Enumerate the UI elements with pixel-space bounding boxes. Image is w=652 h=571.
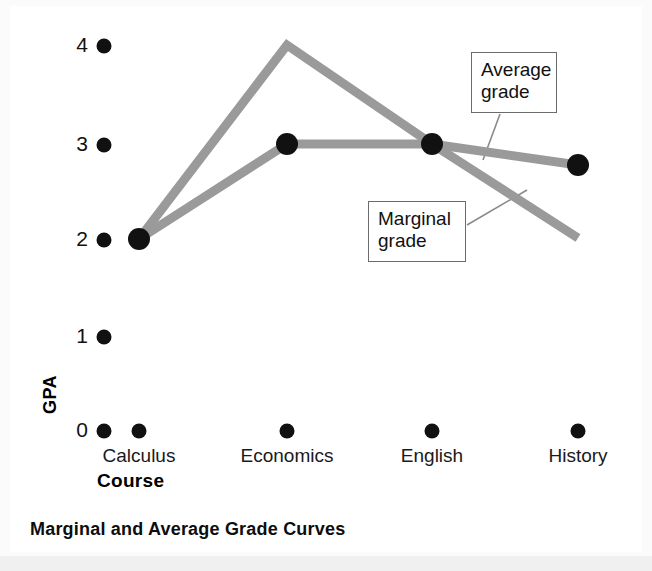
data-point-calculus	[128, 228, 150, 250]
y-tick-dot-4	[97, 39, 112, 54]
y-tick-label-0: 0	[58, 419, 88, 440]
y-axis-title: GPA	[40, 371, 61, 419]
y-tick-dot-1	[97, 330, 112, 345]
x-tick-label-english: English	[362, 446, 502, 465]
figure-caption: Marginal and Average Grade Curves	[30, 519, 345, 540]
data-point-economics-average	[276, 133, 298, 155]
y-tick-label-3: 3	[58, 133, 88, 154]
x-tick-dot-english	[425, 424, 440, 439]
x-tick-dot-calculus	[132, 424, 147, 439]
x-axis-title: Course	[97, 470, 164, 492]
data-point-english-crossing	[421, 133, 443, 155]
annotation-average-grade: Average grade	[471, 52, 557, 113]
x-tick-label-economics: Economics	[217, 446, 357, 465]
x-tick-dot-history	[571, 424, 586, 439]
annotation-marginal-grade: Marginal grade	[368, 201, 466, 262]
x-tick-label-calculus: Calculus	[69, 446, 209, 465]
x-tick-dot-economics	[280, 424, 295, 439]
y-tick-dot-2	[97, 233, 112, 248]
chart-figure: 4 3 2 1 0 Calculus Economics English His…	[0, 0, 652, 571]
y-tick-label-4: 4	[58, 34, 88, 55]
y-tick-label-2: 2	[58, 228, 88, 249]
x-tick-label-history: History	[508, 446, 648, 465]
y-tick-label-1: 1	[58, 325, 88, 346]
y-tick-dot-0	[97, 424, 112, 439]
y-tick-dot-3	[97, 138, 112, 153]
data-point-history-average	[567, 154, 589, 176]
